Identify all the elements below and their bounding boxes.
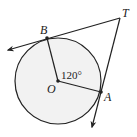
angle-label: 120°	[61, 69, 82, 81]
label-t: T	[122, 6, 130, 20]
label-o: O	[47, 82, 56, 96]
label-a: A	[103, 90, 112, 104]
point-o	[56, 79, 60, 83]
tangent-circle-diagram: B T O A 120°	[0, 0, 137, 137]
label-b: B	[40, 23, 48, 37]
point-a	[99, 90, 103, 94]
